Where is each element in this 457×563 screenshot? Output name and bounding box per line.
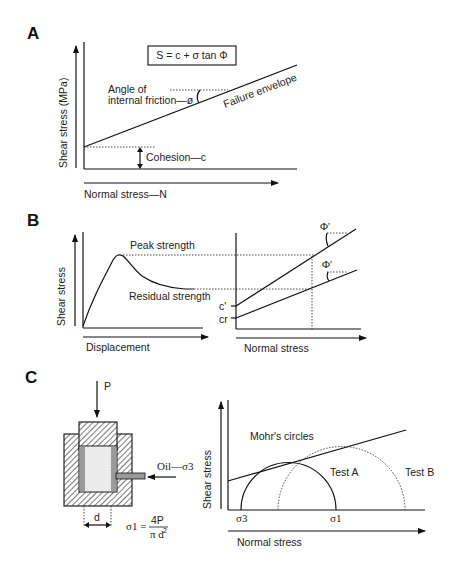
peak-strength-label: Peak strength <box>130 239 195 251</box>
y-axis-label: Shear stress (MPa) <box>57 78 69 168</box>
diagram-canvas: A Shear stress (MPa) Normal stress—N S =… <box>0 0 457 563</box>
right-membrane <box>111 447 116 491</box>
phi-upper-arc <box>326 233 328 246</box>
mohr-x-axis-label: Normal stress <box>237 536 302 548</box>
mohr-circle-test-b <box>278 447 405 511</box>
oil-inlet-pipe <box>116 473 145 479</box>
oil-label: Oil—σ3 <box>157 460 194 472</box>
angle-label-line2: internal friction—ø <box>108 94 194 106</box>
cohesion-arrowhead-down <box>137 164 143 169</box>
load-label: P <box>104 380 111 392</box>
panel-b-label: B <box>27 211 39 230</box>
c-prime-label: c' <box>219 300 226 312</box>
panel-b: B Shear stress Displacement Peak strengt… <box>27 211 366 354</box>
diameter-label: d <box>94 511 100 523</box>
test-a-label: Test A <box>330 466 359 478</box>
failure-envelope-line <box>84 65 297 147</box>
left-membrane <box>80 447 85 491</box>
sigma1-formula-lhs: σ1 = <box>126 520 146 532</box>
diameter-arrowhead-right <box>106 522 111 528</box>
mohr-y-axis-label: Shear stress <box>201 450 213 509</box>
panel-c: C P Oil—σ3 d σ1 = 4P π d 2 Shear stress <box>25 368 434 548</box>
sigma1-formula-numerator: 4P <box>151 514 164 526</box>
panel-a: A Shear stress (MPa) Normal stress—N S =… <box>27 24 298 200</box>
phi-lower-arc <box>327 272 329 281</box>
panel-a-label: A <box>27 24 39 43</box>
mohr-circle-test-a <box>241 463 336 511</box>
cohesion-label: Cohesion—c <box>146 151 206 163</box>
left-y-axis-label: Shear stress <box>55 267 67 326</box>
phi-upper-label: Φ' <box>320 220 330 232</box>
test-b-label: Test B <box>405 466 434 478</box>
mohr-circles-label: Mohr's circles <box>250 430 314 442</box>
sigma3-tick-label: σ3 <box>236 512 248 524</box>
cr-label: cr <box>219 313 228 325</box>
failure-envelope-label: Failure envelope <box>221 71 298 110</box>
phi-lower-label: Φ' <box>322 258 332 270</box>
sigma1-tick-label: σ1 <box>330 512 341 524</box>
friction-angle-arc <box>197 90 200 103</box>
x-axis-label: Normal stress—N <box>84 188 167 200</box>
residual-strength-label: Residual strength <box>129 290 211 302</box>
sigma1-formula-exponent: 2 <box>163 527 167 534</box>
diameter-arrowhead-left <box>84 522 89 528</box>
cohesion-arrowhead-up <box>137 147 143 152</box>
left-x-axis-label: Displacement <box>86 341 150 353</box>
right-x-axis-label: Normal stress <box>244 342 309 354</box>
soil-sample <box>85 447 111 491</box>
panel-c-label: C <box>25 368 37 387</box>
formula-text: S = c + σ tan Φ <box>156 49 227 61</box>
